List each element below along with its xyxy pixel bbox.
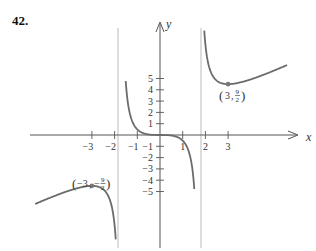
- y-tick-label: 1: [148, 118, 153, 129]
- x-tick-label: 2: [203, 141, 208, 152]
- point-label-min: ( 3 , 9 2 ): [219, 88, 245, 104]
- svg-text:(: (: [219, 88, 223, 103]
- x-tick-label: −3: [83, 141, 94, 152]
- svg-text:): ): [241, 88, 245, 103]
- svg-text:9: 9: [101, 176, 105, 184]
- y-axis-label: y: [165, 17, 172, 31]
- curve-left-branch: [35, 186, 116, 240]
- y-tick-label: 5: [148, 73, 153, 84]
- svg-text:2: 2: [101, 184, 105, 192]
- y-tick-label: −5: [142, 186, 153, 197]
- y-tick-label: −1: [142, 141, 153, 152]
- svg-text:): ): [106, 176, 110, 191]
- y-tick-label: 2: [148, 107, 153, 118]
- svg-text:−3: −3: [77, 178, 88, 189]
- svg-text:, −: , −: [89, 178, 100, 189]
- svg-text:2: 2: [236, 96, 240, 104]
- y-tick-label: 4: [148, 84, 153, 95]
- x-tick-label: 3: [226, 141, 231, 152]
- svg-text:,: ,: [231, 90, 234, 101]
- x-tick-label: −2: [105, 141, 116, 152]
- y-tick-label: −3: [142, 163, 153, 174]
- point-marker: [226, 82, 231, 87]
- y-tick-label: −4: [142, 175, 153, 186]
- svg-text:(: (: [72, 176, 76, 191]
- y-tick-label: 3: [148, 96, 153, 107]
- x-axis-label: x: [305, 130, 312, 144]
- curve-right-branch: [204, 31, 287, 85]
- svg-text:3: 3: [225, 90, 230, 101]
- y-tick-label: −2: [142, 152, 153, 163]
- svg-text:9: 9: [236, 88, 240, 96]
- x-tick-label: −1: [128, 141, 139, 152]
- function-graph: −3−2−112354321−1−2−3−4−5 x y ( 3 , 9 2 )…: [0, 0, 316, 251]
